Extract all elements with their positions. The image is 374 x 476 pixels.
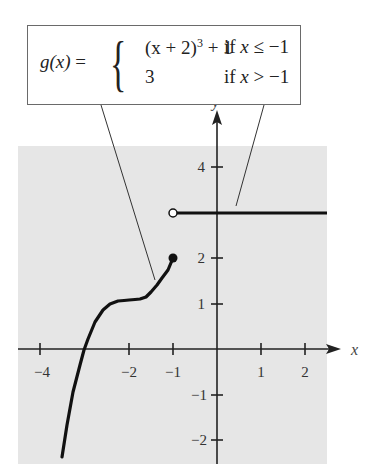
y-tick-label: 1 <box>198 296 206 312</box>
y-tick-label: −2 <box>191 432 207 448</box>
formula-callout: g(x) = { (x + 2)3 + 1 if x ≤ −1 3 if x >… <box>27 25 301 105</box>
case2-expression: 3 <box>145 66 155 88</box>
y-tick-label: 2 <box>198 250 206 266</box>
case2-condition: if x > −1 <box>224 66 289 88</box>
left-brace-icon: { <box>110 32 126 94</box>
x-tick-label: −2 <box>121 364 137 380</box>
function-argument: (x) <box>50 51 71 72</box>
open-endpoint-circle <box>169 209 177 217</box>
case1-condition: if x ≤ −1 <box>224 36 289 58</box>
x-tick-label: −1 <box>165 364 181 380</box>
x-tick-label: 1 <box>257 364 265 380</box>
x-tick-label: 2 <box>301 364 309 380</box>
function-lhs: g(x) = <box>40 51 86 73</box>
x-tick-label: −4 <box>34 364 50 380</box>
case1-expression: (x + 2)3 + 1 <box>145 36 233 59</box>
closed-endpoint-dot <box>169 254 178 263</box>
plot-panel <box>18 146 327 464</box>
x-axis-label: x <box>350 341 358 358</box>
y-tick-label: −1 <box>191 387 207 403</box>
y-tick-label: 4 <box>198 159 206 175</box>
function-name: g <box>40 51 50 72</box>
equals-sign: = <box>75 51 86 72</box>
